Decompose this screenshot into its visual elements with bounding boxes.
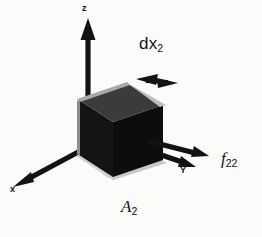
dx2-dimension-arrow xyxy=(136,74,178,88)
f22-force-label: f22 xyxy=(221,150,237,167)
z-axis-label: z xyxy=(82,4,87,13)
dx2-base-text: dx xyxy=(139,34,157,53)
x-axis-label: x xyxy=(10,185,15,194)
dx2-subscript: 2 xyxy=(157,42,163,54)
x-axis-arrow xyxy=(13,150,82,187)
f22-subscript: 22 xyxy=(226,157,238,169)
a2-area-label: A2 xyxy=(121,198,137,215)
mechanics-diagram-figure: z x Y dx2 f22 A2 xyxy=(0,0,262,237)
left-edge-highlight xyxy=(77,100,80,155)
y-axis-label: Y xyxy=(180,166,186,175)
a2-base-text: A xyxy=(121,197,131,216)
z-axis-arrow xyxy=(81,18,96,104)
cuboid-solid xyxy=(76,82,167,180)
a2-subscript: 2 xyxy=(131,205,137,217)
dx2-dimension-label: dx2 xyxy=(139,35,163,52)
